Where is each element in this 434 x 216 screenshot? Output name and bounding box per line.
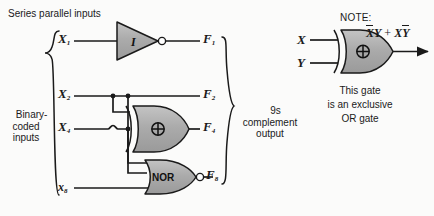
note-expression-operator: + bbox=[381, 26, 394, 40]
note-expression-xbar: X bbox=[366, 26, 374, 40]
output-label-f8: F8 bbox=[206, 167, 218, 183]
inverter-gate: I bbox=[117, 22, 166, 60]
note-caption-line-1: This gate bbox=[300, 85, 420, 97]
note-expression-ybar: Y bbox=[402, 26, 409, 40]
note-caption-line-2: is an exclusive bbox=[300, 99, 420, 111]
output-label-f4-sub: 4 bbox=[212, 127, 216, 135]
note-input-label-x: X bbox=[297, 32, 306, 47]
input-label-x4-sub: 4 bbox=[67, 127, 71, 135]
inverter-bubble bbox=[158, 37, 165, 44]
input-label-x1-base: X bbox=[58, 31, 67, 46]
output-label-f1-sub: 1 bbox=[212, 39, 216, 47]
output-label-f4-base: F bbox=[203, 119, 212, 134]
output-label-f1-base: F bbox=[203, 31, 212, 46]
diagram-title: Series parallel inputs bbox=[8, 8, 101, 20]
xor-gate bbox=[126, 106, 189, 152]
output-group-label-text: 9s complement output bbox=[243, 105, 297, 140]
input-label-x2-base: X bbox=[58, 86, 67, 101]
note-caption-line-3: OR gate bbox=[300, 113, 420, 125]
diagram-canvas: I bbox=[0, 0, 434, 216]
note-expression: XY+XY bbox=[366, 26, 410, 40]
nor-label: NOR bbox=[152, 172, 175, 183]
wire-x4-to-xor bbox=[74, 126, 130, 132]
input-label-x1-sub: 1 bbox=[67, 39, 71, 47]
output-label-f2-sub: 2 bbox=[212, 94, 216, 102]
input-group-label: Binary- coded inputs bbox=[2, 97, 50, 156]
note-xor-symbol bbox=[357, 45, 369, 57]
input-label-x8: x8 bbox=[58, 180, 68, 195]
note-heading: NOTE: bbox=[340, 12, 372, 24]
note-input-label-y: Y bbox=[297, 55, 305, 70]
output-brace bbox=[222, 37, 234, 184]
output-label-f8-sub: 8 bbox=[215, 175, 219, 183]
nor-gate: NOR bbox=[145, 160, 204, 194]
output-label-f8-base: F bbox=[206, 167, 215, 182]
output-label-f4: F4 bbox=[203, 119, 215, 135]
junction-dot-x2-xor bbox=[111, 94, 116, 99]
input-label-x4: X4 bbox=[58, 119, 70, 135]
input-label-x8-sub: 8 bbox=[64, 187, 68, 195]
note-xor-input-wires bbox=[310, 40, 338, 63]
input-group-label-text: Binary- coded inputs bbox=[12, 109, 47, 144]
output-label-f2: F2 bbox=[203, 86, 215, 102]
input-label-x2-sub: 2 bbox=[67, 94, 71, 102]
output-group-label: 9s complement output bbox=[235, 93, 305, 152]
input-label-x2: X2 bbox=[58, 86, 70, 102]
output-label-f2-base: F bbox=[203, 86, 212, 101]
output-label-f1: F1 bbox=[203, 31, 215, 47]
input-label-x1: X1 bbox=[58, 31, 70, 47]
junction-dot-x2-nor bbox=[126, 94, 131, 99]
xor-symbol bbox=[152, 123, 164, 135]
nor-bubble bbox=[196, 173, 203, 180]
input-label-x4-base: X bbox=[58, 119, 67, 134]
note-expression-x: X bbox=[394, 26, 402, 40]
